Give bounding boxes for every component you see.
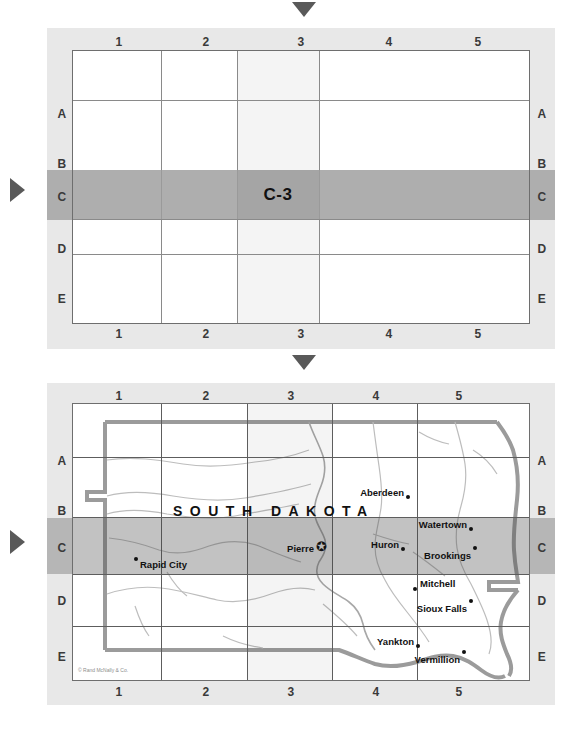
grid-vline-2-3-over-band [237,170,238,219]
river-big-sioux [500,590,518,676]
map-col-header-bottom-4: 4 [354,686,398,698]
map-row-header-right-D: D [532,595,552,607]
capital-star-icon-pierre: ✪ [316,540,327,553]
grid-hline-D-E [73,254,529,255]
map-top-column-marker-icon [292,355,316,370]
city-dot-aberdeen [406,495,410,499]
city-label-vermillion: Vermillion [415,655,460,665]
grid-top-column-marker-icon [292,2,316,17]
grid-row-header-left-D: D [52,243,72,255]
grid-row-header-left-C: C [52,191,72,203]
map-col-header-top-3: 3 [269,390,313,402]
grid-cells: C-3 [73,51,529,323]
grid-row-header-left-A: A [52,108,72,120]
map-col-header-top-2: 2 [184,390,228,402]
city-label-yankton: Yankton [377,637,414,647]
map-col-header-bottom-1: 1 [97,686,141,698]
grid-row-header-left-E: E [52,293,72,305]
map-hline-A-B [73,457,529,458]
city-dot-huron [401,547,405,551]
river-minor-6 [473,450,497,474]
grid-col-header-bottom-4: 4 [367,328,411,340]
map-row-header-left-C: C [52,542,72,554]
city-label-aberdeen: Aberdeen [360,488,404,498]
grid-col-header-top-4: 4 [367,36,411,48]
grid-vline-3-4-over-band [319,170,320,219]
grid-col-header-top-5: 5 [456,36,500,48]
city-label-pierre: Pierre [287,544,314,554]
city-dot-vermillion [462,650,466,654]
grid-cell-label-c3: C-3 [253,185,303,205]
grid-col-header-top-2: 2 [184,36,228,48]
grid-col-header-top-3: 3 [279,36,323,48]
map-col-header-bottom-2: 2 [184,686,228,698]
city-label-mitchell: Mitchell [420,579,455,589]
grid-row-header-right-D: D [532,243,552,255]
map-row-header-left-D: D [52,595,72,607]
map-row-header-left-E: E [52,651,72,663]
map-left-row-marker-icon [10,530,25,554]
grid-row-header-right-C: C [532,191,552,203]
map-hline-D-E [73,626,529,627]
river-minor-1 [135,606,149,636]
city-dot-mitchell [413,587,417,591]
grid-col-header-bottom-3: 3 [279,328,323,340]
city-label-huron: Huron [371,540,399,550]
map-col-header-bottom-5: 5 [437,686,481,698]
grid-hline-C-D [73,219,529,220]
map-col-header-top-1: 1 [97,390,141,402]
city-label-rapid-city: Rapid City [140,560,187,570]
map-row-header-left-A: A [52,455,72,467]
map-row-header-right-A: A [532,455,552,467]
map-row-header-right-B: B [532,505,552,517]
city-dot-sioux-falls [469,599,473,603]
page-root: 1 2 3 4 5 1 2 3 4 5 A B C D E A B C D E [0,0,564,733]
map-row-header-left-B: B [52,505,72,517]
grid-box: C-3 [72,50,530,324]
city-label-brookings: Brookings [424,551,471,561]
grid-col-header-top-1: 1 [97,36,141,48]
city-label-watertown: Watertown [419,520,467,530]
state-name-label: SOUTH DAKOTA [173,504,375,518]
grid-row-header-right-A: A [532,108,552,120]
city-dot-yankton [416,644,420,648]
map-col-header-bottom-3: 3 [269,686,313,698]
city-dot-watertown [469,527,473,531]
map-copyright: © Rand McNally & Co. [78,668,128,673]
city-dot-rapid-city [134,557,138,561]
map-col-header-top-4: 4 [354,390,398,402]
grid-row-header-right-B: B [532,158,552,170]
grid-row-header-left-B: B [52,158,72,170]
map-box[interactable]: SOUTH DAKOTA Aberdeen Watertown ✪ Pierre… [72,403,530,681]
grid-panel: 1 2 3 4 5 1 2 3 4 5 A B C D E A B C D E [47,28,555,349]
grid-hline-A-B [73,100,529,101]
map-hline-C-D [73,574,529,575]
grid-row-header-right-E: E [532,293,552,305]
map-col-header-top-5: 5 [437,390,481,402]
grid-vline-1-2-over-band [161,170,162,219]
river-minor-5 [419,432,449,444]
map-row-header-right-C: C [532,542,552,554]
grid-left-row-marker-icon [10,178,25,202]
grid-col-header-bottom-1: 1 [97,328,141,340]
map-panel: 1 2 3 4 5 1 2 3 4 5 A B C D E A B C D E [47,383,555,705]
map-row-header-right-E: E [532,651,552,663]
grid-col-header-bottom-2: 2 [184,328,228,340]
city-dot-brookings [473,546,477,550]
city-label-sioux-falls: Sioux Falls [417,604,467,614]
grid-col-header-bottom-5: 5 [456,328,500,340]
